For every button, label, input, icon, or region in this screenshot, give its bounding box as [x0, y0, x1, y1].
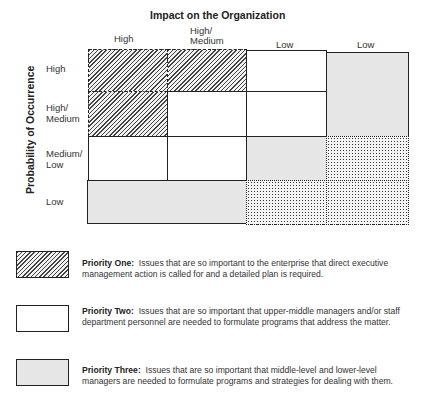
legend-item-priority-two: Priority Two: Issues that are so importa… [82, 306, 417, 327]
cell-low-low2-crosshatch [326, 180, 409, 225]
cell-mediumlow-high-priority-two [88, 136, 168, 181]
diagram-title: Impact on the Organization [150, 9, 285, 21]
row-header-high-medium: High/ Medium [46, 102, 80, 124]
legend-swatch-priority-three [16, 359, 69, 386]
legend-swatch-priority-one [16, 251, 69, 278]
column-header-high-medium: High/ Medium [190, 26, 224, 46]
legend-title-priority-two: Priority Two: [82, 306, 134, 316]
row-header-high: High [46, 63, 66, 74]
cell-mediumlow-low2-crosshatch [326, 136, 409, 181]
cell-highmedium-low-priority-two [246, 91, 327, 137]
column-header-low-2: Low [357, 40, 374, 50]
cell-highmedium-high-priority-one [88, 91, 168, 137]
column-header-high: High [114, 34, 134, 44]
row-header-low: Low [46, 196, 63, 207]
cell-low-low-crosshatch [246, 180, 327, 225]
cell-high-highmedium-priority-one [167, 49, 247, 92]
legend-item-priority-three: Priority Three: Issues that are so impor… [82, 365, 417, 386]
y-axis-label: Probability of Occurrence [24, 74, 36, 194]
cell-mediumlow-highmedium-priority-two [167, 136, 247, 181]
legend-item-priority-one: Priority One: Issues that are so importa… [82, 258, 417, 279]
cell-high-low-priority-two [246, 50, 327, 92]
column-header-low-1: Low [276, 40, 293, 50]
legend-title-priority-three: Priority Three: [82, 365, 141, 375]
cell-mediumlow-low-priority-three [246, 136, 327, 181]
cell-highmedium-highmedium-priority-two [167, 91, 247, 137]
row-header-medium-low: Medium/ Low [46, 148, 82, 170]
cell-highmedium-low-priority-three [326, 52, 409, 137]
cell-low-high-highmedium-priority-three [87, 180, 247, 224]
cell-high-high-priority-one [88, 49, 168, 92]
legend-title-priority-one: Priority One: [82, 258, 134, 268]
legend-swatch-priority-two [16, 305, 69, 332]
